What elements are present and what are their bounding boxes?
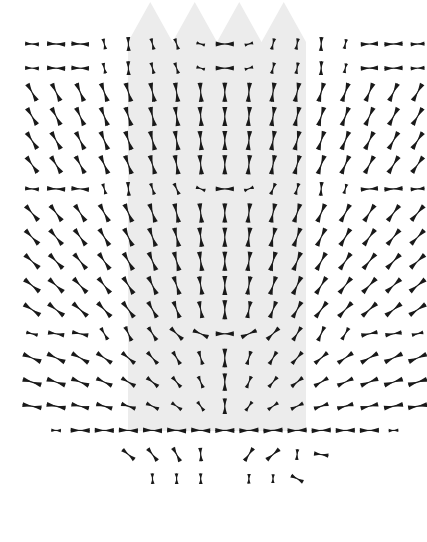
glyph-field-canvas — [0, 0, 427, 542]
tensor-field-figure: Tensor field glyph plot Bowtie eigenvect… — [0, 0, 427, 542]
